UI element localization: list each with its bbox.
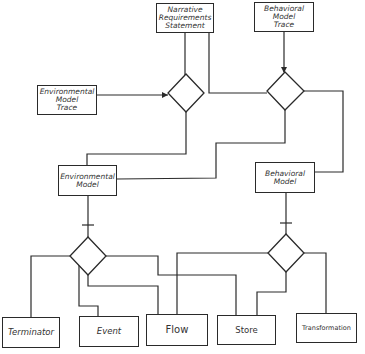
environmental-model-box: Environmental Model bbox=[58, 165, 117, 196]
box-label: Store bbox=[235, 326, 257, 335]
arrowhead-icon bbox=[281, 67, 287, 73]
box-label: Event bbox=[97, 327, 121, 336]
connector bbox=[257, 272, 286, 315]
connector bbox=[31, 256, 70, 317]
environmental-model-trace-box: Environmental Model Trace bbox=[37, 85, 97, 115]
connector bbox=[304, 253, 326, 313]
transformation-box: Transformation bbox=[296, 313, 357, 343]
narrative-requirements-statement-box: Narrative Requirements Statement bbox=[156, 3, 214, 33]
box-label: Transformation bbox=[302, 325, 351, 332]
arrowhead-icon bbox=[162, 92, 168, 98]
behavioral-model-box: Behavioral Model bbox=[255, 162, 315, 193]
relationship-diamond-bottom-left bbox=[70, 237, 106, 275]
box-label: Terminator bbox=[8, 328, 54, 337]
relationship-diamond-top-right bbox=[267, 72, 304, 110]
box-label: Behavioral Model Trace bbox=[264, 5, 304, 29]
connector bbox=[177, 253, 268, 314]
connector bbox=[304, 91, 343, 172]
terminator-box: Terminator bbox=[2, 317, 60, 348]
relationship-diamond-bottom-right bbox=[268, 234, 304, 272]
box-label: Environmental Model bbox=[60, 173, 115, 189]
event-box: Event bbox=[79, 316, 139, 347]
box-label: Flow bbox=[166, 325, 189, 336]
box-label: Environmental Model Trace bbox=[40, 88, 95, 112]
connector bbox=[87, 112, 186, 165]
behavioral-model-trace-box: Behavioral Model Trace bbox=[254, 2, 314, 32]
flow-box: Flow bbox=[146, 314, 208, 346]
box-label: Behavioral Model bbox=[265, 170, 305, 186]
store-box: Store bbox=[217, 315, 276, 345]
connector bbox=[209, 33, 267, 93]
box-label: Narrative Requirements Statement bbox=[159, 6, 212, 30]
relationship-diamond-top-left bbox=[168, 74, 204, 112]
